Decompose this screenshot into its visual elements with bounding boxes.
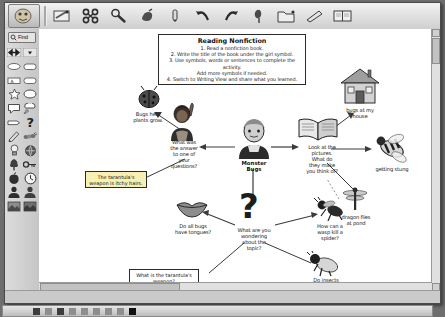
palette-person-1[interactable] [6,185,22,199]
find-label: Find [18,35,28,41]
svg-text:?: ? [26,116,34,129]
left-right-arrows-icon [7,48,21,57]
diagram-canvas[interactable]: Reading Nonfiction 1. Read a nonfiction … [39,29,432,291]
symbol-palette: Find A [5,29,40,303]
dock-item-8[interactable] [117,308,124,315]
node-bee[interactable] [372,131,412,169]
photo-icon [7,201,21,212]
magnifier-icon[interactable] [106,5,132,27]
photo-icon [23,201,37,212]
oval-shape-icon [7,62,21,71]
node-ladybug[interactable] [135,85,163,113]
node-question-mark-label: What are you wondering about the topic? [225,227,283,251]
paintbrush-icon[interactable] [246,5,272,27]
open-book-icon [297,115,339,143]
palette-dropdown[interactable] [22,45,38,59]
palette-globe[interactable] [22,143,38,157]
folder-icon[interactable] [274,5,300,27]
node-house[interactable] [339,67,381,109]
ladybug-icon [135,85,163,109]
highlighter-icon[interactable] [302,5,328,27]
palette-apple[interactable] [6,171,22,185]
node-center-girl[interactable] [235,117,273,163]
dock-item-7[interactable] [105,308,112,315]
palette-ellipse[interactable] [22,87,38,101]
thought-bubble-icon [23,103,37,114]
node-bee-label: getting stung [361,166,423,172]
palette-text-box[interactable]: A [6,73,22,87]
scroll-up-arrow[interactable] [432,29,440,37]
node-open-book-label: Look at the pictures. What do they make … [295,144,349,174]
link-button[interactable] [78,5,104,27]
vertical-scroll-thumb[interactable] [432,38,440,64]
palette-key[interactable] [22,157,38,171]
palette-person-2[interactable] [22,185,38,199]
palette-photo-1[interactable] [6,199,22,213]
dock-item-2[interactable] [45,308,52,315]
palette-pencil[interactable] [6,129,22,143]
node-question-mark[interactable]: ? [239,189,259,223]
palette-star[interactable] [6,87,22,101]
rounded-rect-icon [23,62,37,71]
status-bar [5,290,440,303]
node-lips-label: Do all bugs have tongues? [163,223,223,235]
palette-rounded-2[interactable] [22,73,38,87]
palette-thought-bubble[interactable] [22,101,38,115]
palette-question-mark[interactable]: ? [22,115,38,129]
girl-symbol-icon [235,117,273,159]
undo-arrow-icon[interactable] [190,5,216,27]
dock-item-3[interactable] [57,308,64,315]
question-mark-icon: ? [25,116,36,129]
book-view-icon[interactable] [330,5,356,27]
dock-item-6[interactable] [93,308,100,315]
apple-icon [8,172,20,185]
dock-item-9[interactable] [129,308,136,315]
redo-arrow-icon[interactable] [218,5,244,27]
diagram-content: Reading Nonfiction 1. Read a nonfiction … [39,29,432,291]
lightbulb-icon [9,144,20,157]
dock-item-5[interactable] [81,308,88,315]
globe-icon [24,144,37,157]
node-lips[interactable] [175,201,209,223]
palette-rounded-1[interactable] [22,59,38,73]
toolbar-separator [44,6,47,26]
palette-speech-bubble[interactable] [6,101,22,115]
speech-bubble-icon [7,103,21,114]
note-tarantula-answer[interactable]: The tarantula's weapon is itchy hairs. [85,171,147,188]
house-icon [339,67,381,105]
palette-photo-2[interactable] [22,199,38,213]
palette-tree[interactable] [6,157,22,171]
node-wasp[interactable] [313,197,345,225]
find-button[interactable]: Find [8,32,36,43]
palette-caterpillar[interactable] [22,129,38,143]
pencil-icon [7,130,21,142]
node-question-raised-hand-label: What was the answer to one of your quest… [157,139,211,169]
new-symbol-button[interactable] [50,5,76,27]
system-dock [2,305,433,317]
eraser-icon[interactable] [134,5,160,27]
wasp-icon [313,197,345,221]
star-icon [8,88,21,100]
node-center-label: Monster Bugs [229,160,279,173]
palette-flag[interactable] [6,115,22,129]
rounded-rect-icon [23,76,37,85]
key-icon [23,160,37,169]
text-box-icon: A [7,76,21,85]
node-house-label: bugs at my house [335,107,385,119]
palette-lightbulb[interactable] [6,143,22,157]
person-icon [7,186,21,198]
find-icon [10,34,17,41]
node-open-book[interactable] [297,115,339,147]
palette-arrows[interactable] [6,45,22,59]
main-toolbar [5,3,440,30]
palette-clock[interactable] [22,171,38,185]
node-wasp-label: How can a wasp kill a spider? [307,223,353,241]
palette-oval-1[interactable] [6,59,22,73]
app-logo-icon[interactable] [8,4,40,28]
caterpillar-icon [23,131,37,141]
child-raised-hand-icon [165,101,201,141]
pen-icon[interactable] [162,5,188,27]
vertical-scrollbar[interactable] [431,29,440,291]
dock-item-4[interactable] [69,308,76,315]
dock-item-1[interactable] [33,308,40,315]
